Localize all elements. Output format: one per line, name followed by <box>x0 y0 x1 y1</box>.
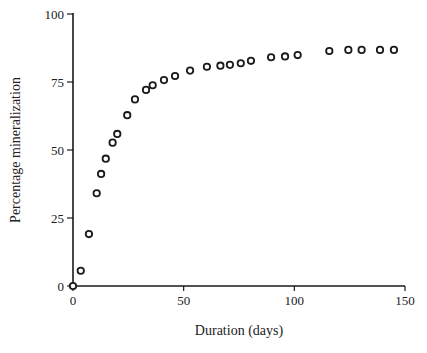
data-point <box>187 67 193 73</box>
data-point <box>132 96 138 102</box>
chart: 0255075100 050100150 Duration (days) Per… <box>0 0 427 353</box>
data-points <box>70 47 397 289</box>
data-point <box>114 131 120 137</box>
data-point <box>93 190 99 196</box>
data-point <box>109 139 115 145</box>
data-point <box>172 73 178 79</box>
data-point <box>377 47 383 53</box>
axes <box>73 13 405 286</box>
data-point <box>391 47 397 53</box>
data-point <box>227 62 233 68</box>
data-point <box>143 87 149 93</box>
data-point <box>204 64 210 70</box>
x-tick-label: 0 <box>70 293 77 308</box>
data-point <box>98 171 104 177</box>
y-tick-label: 25 <box>51 211 64 226</box>
x-tick-label: 150 <box>395 293 415 308</box>
y-axis-title: Percentage mineralization <box>8 77 23 223</box>
x-ticks: 050100150 <box>70 286 415 308</box>
data-point <box>103 156 109 162</box>
data-point <box>358 47 364 53</box>
x-axis-title: Duration (days) <box>195 323 284 339</box>
y-tick-label: 100 <box>45 7 65 22</box>
data-point <box>149 82 155 88</box>
x-tick-label: 50 <box>177 293 190 308</box>
data-point <box>248 58 254 64</box>
y-ticks: 0255075100 <box>45 7 74 294</box>
y-tick-label: 50 <box>51 143 64 158</box>
data-point <box>294 52 300 58</box>
y-tick-label: 75 <box>51 75 64 90</box>
data-point <box>345 47 351 53</box>
data-point <box>70 283 76 289</box>
data-point <box>238 60 244 66</box>
data-point <box>268 54 274 60</box>
y-tick-label: 0 <box>58 279 65 294</box>
data-point <box>86 231 92 237</box>
data-point <box>124 112 130 118</box>
data-point <box>326 48 332 54</box>
data-point <box>161 77 167 83</box>
data-point <box>78 268 84 274</box>
x-tick-label: 100 <box>285 293 305 308</box>
data-point <box>217 62 223 68</box>
data-point <box>282 53 288 59</box>
